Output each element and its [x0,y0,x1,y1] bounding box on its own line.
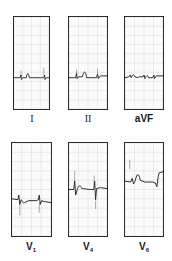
lead-label-v4: V4 [66,241,110,253]
ecg-trace-lead-ii [69,17,107,109]
ecg-trace-lead-v6 [125,143,163,236]
lead-label-ii: II [66,113,110,124]
lead-label-v6: V6 [122,241,166,253]
lead-label-i: I [10,113,54,124]
ecg-panel-lead-avf [124,16,164,110]
ecg-panel-lead-v4 [68,142,108,237]
ecg-trace-lead-avf [125,17,163,109]
ecg-panel-lead-i [13,16,50,110]
ecg-panel-lead-v1 [11,142,52,237]
ecg-panel-lead-v6 [124,142,164,237]
ecg-trace-lead-i [14,17,49,109]
ecg-trace-lead-v1 [12,143,51,236]
ecg-panel-lead-ii [68,16,108,110]
ecg-trace-lead-v4 [69,143,107,236]
lead-label-v1: V1 [9,241,53,253]
lead-label-avf: aVF [122,113,166,124]
